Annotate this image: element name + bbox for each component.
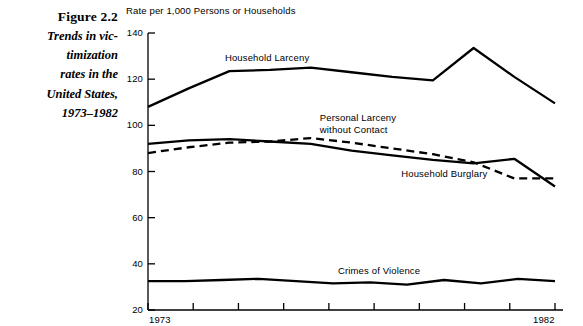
series-label-text: Household Burglary: [401, 168, 487, 179]
figure-title-line-5: 1973–1982: [0, 105, 118, 121]
series-label-2: Household Burglary: [401, 168, 487, 180]
series-label-3: Crimes of Violence: [338, 265, 420, 277]
figure-title-line-2: timization: [0, 47, 118, 63]
y-tick-label: 140: [119, 27, 143, 38]
plot-svg: [118, 0, 583, 326]
figure-container: Figure 2.2 Trends in vic- timization rat…: [0, 0, 583, 326]
series-label-text: Crimes of Violence: [338, 265, 420, 276]
y-tick-label: 20: [119, 304, 143, 315]
y-tick-label: 80: [119, 166, 143, 177]
y-tick-label: 60: [119, 212, 143, 223]
series-line-1: [148, 138, 555, 178]
figure-title-line-4: United States,: [0, 86, 118, 102]
line-chart: Rate per 1,000 Persons or Households 204…: [118, 0, 583, 326]
series-label-1: Personal Larcenywithout Contact: [320, 112, 396, 135]
figure-title-line-1: Trends in vic-: [0, 28, 118, 44]
y-tick-label: 120: [119, 73, 143, 84]
figure-number: Figure 2.2: [0, 8, 118, 25]
y-tick-label: 40: [119, 258, 143, 269]
series-line-2: [148, 139, 555, 186]
x-tick-label-end: 1982: [533, 314, 555, 325]
figure-title-line-3: rates in the: [0, 66, 118, 82]
series-label-text: Personal Larceny: [320, 112, 396, 123]
series-line-3: [148, 279, 555, 285]
series-line-0: [148, 48, 555, 107]
series-label-text: Household Larceny: [225, 52, 309, 63]
series-label-0: Household Larceny: [225, 52, 309, 64]
y-tick-label: 100: [119, 119, 143, 130]
figure-caption: Figure 2.2 Trends in vic- timization rat…: [0, 8, 118, 121]
series-label-text: without Contact: [320, 124, 388, 135]
x-tick-label-start: 1973: [149, 314, 171, 325]
